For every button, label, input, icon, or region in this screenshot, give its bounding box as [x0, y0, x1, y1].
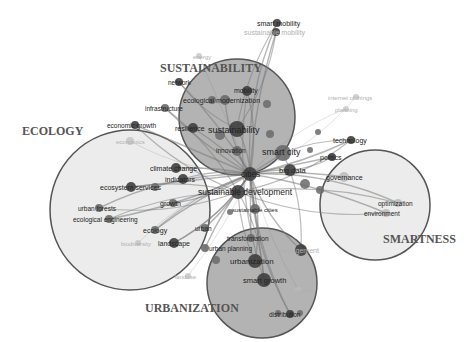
cooccurrence-network-diagram: smart mobilitysustainable mobilityenergy…	[0, 0, 470, 342]
node-label-economics: economics	[116, 139, 145, 145]
unlabeled-node	[315, 129, 321, 135]
node-label-distribution: distribution	[269, 311, 301, 318]
node-label-economic-growth: economic growth	[107, 122, 157, 130]
node-label-biodiversity: biodiversity	[121, 241, 151, 247]
node-label-environment: environment	[364, 210, 400, 217]
node-label-innovation: innovation	[216, 147, 246, 154]
node-label-urban-planning: urban planning	[209, 245, 252, 253]
cluster-title-smartness: SMARTNESS	[383, 232, 456, 246]
unlabeled-node	[300, 179, 310, 189]
node-label-smart-city: smart city	[262, 147, 301, 157]
unlabeled-node	[266, 130, 274, 138]
node-label-planning: planning	[335, 107, 358, 113]
node-label-big-data: big data	[279, 166, 307, 175]
node-label-climate-change: climate change	[150, 165, 197, 173]
node-urban-planning[interactable]	[201, 244, 209, 252]
node-label-landuse: landuse	[175, 274, 197, 280]
node-label-transformation: transformation	[227, 235, 269, 242]
node-label-sustainable-mobility: sustainable mobility	[244, 29, 306, 37]
node-label-spatial: spatial	[295, 288, 312, 294]
node-label-management: management	[278, 247, 319, 255]
unlabeled-node	[263, 100, 271, 108]
network-canvas: smart mobilitysustainable mobilityenergy…	[0, 0, 470, 342]
node-label-ecological-modernization: ecological modernization	[183, 97, 260, 105]
unlabeled-node	[212, 256, 220, 264]
node-label-sustainable-cities: sustainable cities	[232, 207, 278, 213]
node-label-internet-of-things: internet of things	[328, 95, 372, 101]
cluster-title-ecology: ECOLOGY	[22, 124, 84, 138]
cluster-title-sustainability: SUSTAINABILITY	[160, 61, 262, 75]
node-label-optimization: optimization	[378, 200, 413, 208]
node-label-smart-mobility: smart mobility	[257, 20, 301, 28]
node-label-smart-growth: smart growth	[243, 276, 286, 285]
unlabeled-node	[307, 147, 313, 153]
node-label-ecological-engineering: ecological engineering	[73, 216, 138, 224]
unlabeled-node	[316, 186, 324, 194]
node-label-urbanization: urbanization	[230, 257, 274, 266]
cluster-title-urbanization: URBANIZATION	[145, 301, 239, 315]
node-label-mobility: mobility	[234, 87, 258, 95]
node-label-ecology: ecology	[143, 227, 168, 235]
node-label-infrastructure: infrastructure	[145, 105, 183, 112]
node-label-indicators: indicators	[165, 176, 195, 183]
node-label-sustainability: sustainability	[208, 125, 260, 135]
node-label-cities: cities	[241, 169, 260, 179]
node-label-ecosystem-services: ecosystem services	[100, 184, 162, 192]
node-label-urban: urban	[195, 225, 212, 232]
node-label-governance: governance	[326, 174, 363, 182]
node-label-resilience: resilience	[175, 125, 205, 132]
node-label-energy: energy	[193, 54, 211, 60]
node-label-network: network	[168, 79, 192, 86]
node-label-growth: growth	[160, 200, 181, 208]
node-label-politics: politics	[320, 154, 342, 162]
node-label-landscape: landscape	[158, 240, 190, 248]
node-label-technology: technology	[333, 137, 367, 145]
node-label-urban-forests: urban forests	[78, 205, 117, 212]
node-label-sustainable-development: sustainable development	[198, 187, 293, 197]
